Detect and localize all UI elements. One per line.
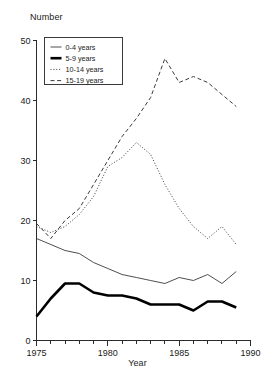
- series-layer: [37, 59, 237, 317]
- x-axis: 1975198019851990: [26, 341, 260, 358]
- y-tick-label: 50: [20, 36, 30, 46]
- legend-label-1: 5-9 years: [66, 54, 96, 63]
- y-tick-label: 40: [20, 96, 30, 106]
- x-tick-label: 1975: [26, 348, 46, 358]
- y-axis: 01020304050: [20, 36, 36, 346]
- line-chart: Number Year 01020304050 1975198019851990…: [0, 0, 275, 382]
- y-tick-label: 20: [20, 216, 30, 226]
- series-line-0: [37, 239, 237, 284]
- chart-legend: 0-4 years5-9 years10-14 years15-19 years: [45, 38, 123, 86]
- plot-area: 01020304050 1975198019851990 0-4 years5-…: [0, 0, 275, 382]
- x-tick-label: 1985: [169, 348, 189, 358]
- x-tick-label: 1980: [98, 348, 118, 358]
- series-line-2: [37, 143, 237, 245]
- legend-label-0: 0-4 years: [66, 43, 96, 52]
- y-tick-label: 30: [20, 156, 30, 166]
- legend-label-2: 10-14 years: [66, 65, 104, 74]
- legend-label-3: 15-19 years: [66, 76, 104, 85]
- series-line-3: [37, 59, 237, 239]
- y-tick-label: 10: [20, 276, 30, 286]
- x-tick-label: 1990: [240, 348, 260, 358]
- series-line-1: [37, 284, 237, 317]
- y-tick-label: 0: [25, 336, 30, 346]
